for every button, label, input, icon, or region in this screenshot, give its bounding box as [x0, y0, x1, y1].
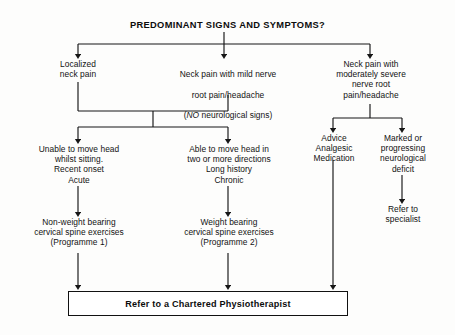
- node-advice-analgesic-medication: Advice Analgesic Medication: [303, 133, 365, 164]
- node-marked-progressing-deficit: Marked or progressing neurological defic…: [370, 133, 436, 174]
- node-able-to-move-head: Able to move head in two or more directi…: [162, 144, 296, 185]
- node-mild-nerve-root-emphasis: NO: [187, 110, 200, 120]
- node-mild-nerve-root-pain: Neck pain with mild nerve root pain/head…: [147, 59, 309, 130]
- node-mild-nerve-root-suffix: neurological signs): [199, 110, 272, 120]
- node-localized-neck-pain: Localized neck pain: [28, 59, 128, 79]
- node-mild-nerve-root-line-1: Neck pain with mild nerve: [147, 69, 309, 79]
- terminal-node-refer-to-physiotherapist: Refer to a Chartered Physiotherapist: [68, 291, 348, 316]
- node-mild-nerve-root-line-2: root pain/headache: [147, 90, 309, 100]
- flowchart-diagram: PREDOMINANT SIGNS AND SYMPTOMS?: [0, 0, 455, 335]
- node-weight-bearing-programme-2: Weight bearing cervical spine exercises …: [163, 217, 295, 248]
- node-non-weight-bearing-programme-1: Non-weight bearing cervical spine exerci…: [14, 217, 144, 248]
- node-refer-to-specialist: Refer to specialist: [371, 204, 435, 224]
- terminal-node-label: Refer to a Chartered Physiotherapist: [69, 292, 347, 315]
- node-mild-nerve-root-line-3: (NO neurological signs): [147, 110, 309, 120]
- node-moderately-severe-nerve-root: Neck pain with moderately severe nerve r…: [316, 59, 426, 100]
- node-unable-to-move-head: Unable to move head whilst sitting. Rece…: [14, 144, 144, 185]
